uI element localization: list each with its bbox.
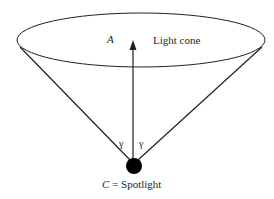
diagram-graphics <box>0 0 274 199</box>
angle-left-label: γ <box>119 138 123 149</box>
cone-base-ellipse <box>17 13 265 67</box>
cone-left-edge <box>20 47 130 160</box>
spotlight-dot <box>126 158 142 174</box>
angle-right-label: γ <box>139 138 143 149</box>
spotlight-text: = Spotlight <box>109 178 161 190</box>
cone-label: Light cone <box>153 34 200 46</box>
light-cone-diagram: A Light cone γ γ C = Spotlight <box>0 0 274 199</box>
axis-arrowhead <box>130 40 137 50</box>
axis-label: A <box>107 33 114 45</box>
spotlight-label: C = Spotlight <box>102 178 161 190</box>
